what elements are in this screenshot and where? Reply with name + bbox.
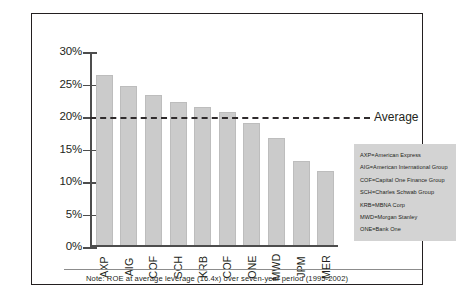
y-tick-0: [83, 247, 97, 249]
bar-slot-one: [240, 50, 265, 245]
plot-area: 30% 25% 20% 15% 10% 5% 0%: [90, 52, 336, 247]
average-line-label: Average: [374, 110, 418, 124]
bar-slot-aig: [117, 50, 142, 245]
y-tick-label-15: 15%: [36, 143, 82, 155]
bar-mer[interactable]: [317, 171, 334, 246]
y-tick-label-20: 20%: [36, 110, 82, 122]
footer-divider: [64, 269, 422, 270]
bar-slot-axp: [92, 50, 117, 245]
bar-slot-jpm: [289, 50, 314, 245]
bar-slot-cof-2: [215, 50, 240, 245]
legend-entry-sch: SCH=Charles Schwab Group: [360, 186, 456, 198]
x-axis-line: [90, 245, 338, 247]
bar-jpm[interactable]: [293, 161, 310, 246]
y-tick-label-10: 10%: [36, 175, 82, 187]
bar-krb[interactable]: [194, 107, 211, 245]
legend-entry-one: ONE=Bank One: [360, 223, 456, 235]
bar-aig[interactable]: [120, 86, 137, 246]
bar-slot-krb: [190, 50, 215, 245]
bar-sch[interactable]: [170, 102, 187, 246]
legend-box: AXP=American Express AIG=American Intern…: [354, 144, 456, 241]
legend-entry-aig: AIG=American International Group: [360, 161, 456, 173]
y-tick-label-0: 0%: [36, 240, 82, 252]
y-axis-tick-labels: 30% 25% 20% 15% 10% 5% 0%: [34, 52, 82, 247]
bar-slot-cof-1: [141, 50, 166, 245]
bar-cof-2[interactable]: [219, 112, 236, 246]
bar-slot-mer: [313, 50, 338, 245]
bar-axp[interactable]: [96, 75, 113, 245]
y-tick-label-30: 30%: [36, 45, 82, 57]
legend-entry-mwd: MWD=Morgan Stanley: [360, 211, 456, 223]
bar-slot-mwd: [264, 50, 289, 245]
y-tick-label-5: 5%: [36, 208, 82, 220]
bar-slot-sch: [166, 50, 191, 245]
legend-entry-krb: KRB=MBNA Corp: [360, 199, 456, 211]
legend-entry-cof: COF=Capital One Finance Group: [360, 174, 456, 186]
bar-mwd[interactable]: [268, 138, 285, 245]
bar-series: [92, 50, 338, 245]
y-tick-label-25: 25%: [36, 78, 82, 90]
chart-note: Note: ROE at average leverage (16.4x) ov…: [86, 274, 426, 283]
bar-one[interactable]: [243, 123, 260, 245]
chart-frame: 30% 25% 20% 15% 10% 5% 0% Average AXP AI…: [31, 13, 423, 285]
legend-entry-axp: AXP=American Express: [360, 149, 456, 161]
average-line: [90, 117, 370, 119]
